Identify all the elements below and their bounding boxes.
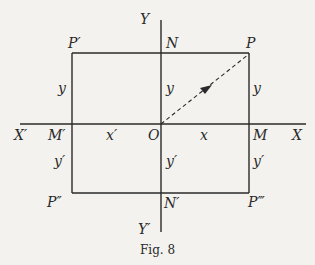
label-y-mid-upper: y <box>165 80 175 96</box>
label-n1: N′ <box>163 195 180 211</box>
figure-caption: Fig. 8 <box>140 243 175 257</box>
label-m: M <box>252 127 268 143</box>
label-y-left-upper: y <box>57 80 67 96</box>
label-p1: P′ <box>67 35 81 51</box>
label-y-pos: Y <box>140 11 151 27</box>
arrowhead-icon <box>200 85 212 94</box>
label-y-left-lower: y′ <box>53 153 66 169</box>
label-p3: P‴ <box>247 194 265 210</box>
label-y-right-upper: y <box>252 80 262 96</box>
label-x-neg: X′ <box>13 127 28 143</box>
label-p2: P″ <box>46 194 62 210</box>
label-x-pos: X <box>291 127 303 143</box>
label-y-neg: Y′ <box>138 221 151 237</box>
label-x: x <box>200 127 208 143</box>
label-y-right-lower: y′ <box>252 153 265 169</box>
label-origin: O <box>148 127 160 143</box>
label-p: P <box>245 35 256 51</box>
label-m1: M′ <box>47 127 66 143</box>
coordinate-diagram: Y Y′ X X′ O P P′ P″ P‴ M M′ N N′ x x′ y … <box>0 0 315 265</box>
label-x1: x′ <box>106 127 118 143</box>
label-y-mid-lower: y′ <box>165 153 178 169</box>
label-n: N <box>165 35 179 51</box>
